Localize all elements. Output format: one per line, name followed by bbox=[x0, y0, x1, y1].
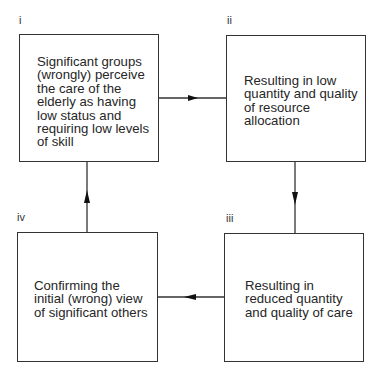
box-i-line: Significant groups bbox=[37, 55, 157, 68]
box-ii-line: allocation bbox=[244, 114, 364, 127]
node-label-i: i bbox=[19, 14, 21, 26]
box-iii-line: Resulting in bbox=[245, 279, 363, 292]
box-confirming-view: Confirming the initial (wrong) view of s… bbox=[17, 232, 158, 362]
box-iv-line: of significant others bbox=[34, 306, 156, 319]
node-label-iii: iii bbox=[226, 212, 233, 224]
box-reduced-care: Resulting in reduced quantity and qualit… bbox=[224, 233, 364, 362]
box-i-line: low status and bbox=[37, 109, 157, 122]
node-label-iv: iv bbox=[17, 211, 25, 223]
box-iii-line: and quality of care bbox=[245, 306, 363, 319]
box-i-line: the care of the bbox=[37, 82, 157, 95]
box-ii-line: quantity and quality bbox=[244, 87, 364, 100]
box-iv-line: Confirming the bbox=[34, 279, 156, 292]
box-iii-line: reduced quantity bbox=[245, 292, 363, 305]
node-label-ii: ii bbox=[227, 14, 232, 26]
box-iv-line: initial (wrong) view bbox=[34, 292, 156, 305]
box-i-line: elderly as having bbox=[37, 95, 157, 108]
box-ii-line: Resulting in low bbox=[244, 74, 364, 87]
box-i-line: (wrongly) perceive bbox=[37, 68, 157, 81]
box-resource-allocation: Resulting in low quantity and quality of… bbox=[226, 35, 366, 162]
box-ii-line: of resource bbox=[244, 101, 364, 114]
box-i-line: of skill bbox=[37, 135, 157, 148]
box-i-line: requiring low levels bbox=[37, 122, 157, 135]
box-perception: Significant groups (wrongly) perceive th… bbox=[19, 34, 159, 162]
